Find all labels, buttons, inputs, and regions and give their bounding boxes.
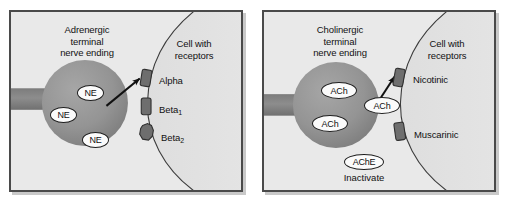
figure-root: Adrenergic terminal nerve ending Cell wi… [0, 0, 507, 210]
vesicle-ne-1: NE [77, 85, 104, 101]
receptor-label-beta1-sub: 1 [178, 109, 182, 116]
panel-cholinergic: Cholinergic terminal nerve ending Cell w… [262, 10, 496, 192]
receptor-beta2-shape [140, 123, 154, 140]
receptor-label-beta2: Beta2 [161, 132, 184, 143]
vesicle-ach-1: ACh [321, 82, 357, 99]
receptor-label-beta1-text: Beta [159, 104, 178, 115]
cell-heading-adrenergic: Cell with receptors [151, 38, 237, 61]
receptor-label-nicotinic: Nicotinic [413, 74, 448, 85]
receptor-beta1-shape [141, 98, 151, 115]
cell-heading-cholinergic: Cell with receptors [404, 38, 490, 61]
receptor-alpha-shape [140, 69, 152, 87]
enzyme-action-label: Inactivate [334, 172, 394, 183]
receptor-label-nicotinic-text: Nicotinic [413, 74, 448, 85]
vesicle-ach-2: ACh [312, 115, 348, 132]
receptor-muscarinic-shape [394, 122, 406, 141]
receptor-label-beta2-sub: 2 [180, 137, 184, 144]
nerve-terminal-adrenergic [42, 60, 128, 146]
receptor-label-muscarinic: Muscarinic [414, 129, 458, 140]
vesicle-ne-2: NE [50, 107, 77, 123]
receptor-label-beta2-text: Beta [161, 132, 180, 143]
vesicle-ach-3-released: ACh [364, 97, 400, 114]
terminal-heading-cholinergic: Cholinergic terminal nerve ending [282, 24, 398, 59]
enzyme-ache-bubble: AChE [344, 154, 384, 170]
receptor-label-muscarinic-text: Muscarinic [414, 129, 458, 140]
receptor-label-alpha: Alpha [159, 75, 183, 86]
receptor-label-beta1: Beta1 [159, 104, 182, 115]
vesicle-ne-3: NE [82, 132, 109, 148]
receptor-label-alpha-text: Alpha [159, 75, 183, 86]
terminal-heading-adrenergic: Adrenergic terminal nerve ending [29, 24, 145, 59]
panel-adrenergic: Adrenergic terminal nerve ending Cell wi… [9, 10, 243, 192]
